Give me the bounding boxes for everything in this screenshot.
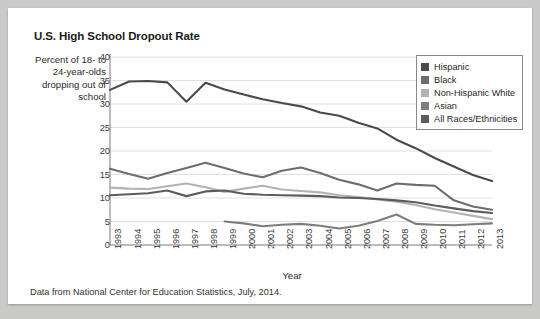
legend-item-label: Hispanic <box>434 62 469 72</box>
chart-card: U.S. High School Dropout Rate Percent of… <box>8 8 532 304</box>
x-tick-label: 1995 <box>152 229 162 249</box>
screenshot-root: U.S. High School Dropout Rate Percent of… <box>0 0 540 319</box>
x-axis-label: Year <box>8 270 532 281</box>
x-tick-label: 2012 <box>476 229 486 249</box>
legend-item-label: All Races/Ethnicities <box>434 114 517 124</box>
x-tick-label: 2010 <box>438 229 448 249</box>
x-tick-label: 2000 <box>247 229 257 249</box>
x-tick-label: 1998 <box>209 229 219 249</box>
x-tick-label: 2009 <box>419 229 429 249</box>
source-caption: Data from National Center for Education … <box>30 287 282 297</box>
x-tick-label: 2002 <box>285 229 295 249</box>
x-tick-label: 2007 <box>381 229 391 249</box>
legend-swatch-icon <box>421 63 429 71</box>
x-tick-label: 2011 <box>457 229 467 249</box>
x-tick-label: 2006 <box>362 229 372 249</box>
legend-swatch-icon <box>421 76 429 84</box>
legend-item-label: Asian <box>434 101 457 111</box>
chart-legend: HispanicBlackNon-Hispanic WhiteAsianAll … <box>416 55 523 130</box>
x-tick-label: 1994 <box>133 229 143 249</box>
legend-item[interactable]: Non-Hispanic White <box>421 86 517 99</box>
x-tick-label: 2004 <box>324 229 334 249</box>
x-tick-label: 2001 <box>266 229 276 249</box>
legend-item[interactable]: Hispanic <box>421 60 517 73</box>
legend-swatch-icon <box>421 102 429 110</box>
x-tick-label: 2003 <box>304 229 314 249</box>
legend-item[interactable]: Asian <box>421 99 517 112</box>
x-tick-label: 2013 <box>495 229 505 249</box>
x-tick-label: 1999 <box>228 229 238 249</box>
x-tick-label: 1993 <box>113 229 123 249</box>
x-tick-label: 1996 <box>171 229 181 249</box>
legend-item-label: Black <box>434 75 456 85</box>
legend-swatch-icon <box>421 89 429 97</box>
legend-item[interactable]: Black <box>421 73 517 86</box>
legend-swatch-icon <box>421 115 429 123</box>
x-tick-label: 1997 <box>190 229 200 249</box>
legend-item[interactable]: All Races/Ethnicities <box>421 112 517 125</box>
x-tick-label: 2008 <box>400 229 410 249</box>
x-axis-ticks: 1993199419951996199719981999200020012002… <box>8 8 532 304</box>
legend-item-label: Non-Hispanic White <box>434 88 515 98</box>
x-tick-label: 2005 <box>343 229 353 249</box>
